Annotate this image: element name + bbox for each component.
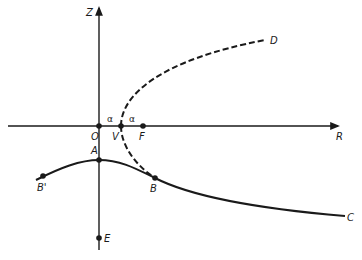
d-label: D [270,35,278,46]
distance-ov-label: α [107,114,113,124]
r-axis-label: R [336,131,343,142]
c-label: C [347,212,354,223]
focus-label: F [139,131,145,142]
point-apex [96,157,102,163]
origin-label: O [91,131,99,142]
diagram-canvas: Z R O V F α α A B B' E D C [0,0,362,260]
solid-curve [36,160,345,216]
distance-vf-label: α [129,114,135,124]
dashed-parabola-upper [121,40,265,126]
e-label: E [104,233,111,244]
point-origin [96,123,102,129]
point-focus [140,123,146,129]
apex-label: A [90,145,98,156]
b-label: B [150,183,157,194]
vertex-label: V [112,131,120,142]
z-axis-label: Z [85,7,94,18]
point-b-prime [40,173,46,179]
point-b [152,175,158,181]
b-prime-label: B' [37,182,47,193]
point-e [96,235,102,241]
point-vertex [118,123,124,129]
